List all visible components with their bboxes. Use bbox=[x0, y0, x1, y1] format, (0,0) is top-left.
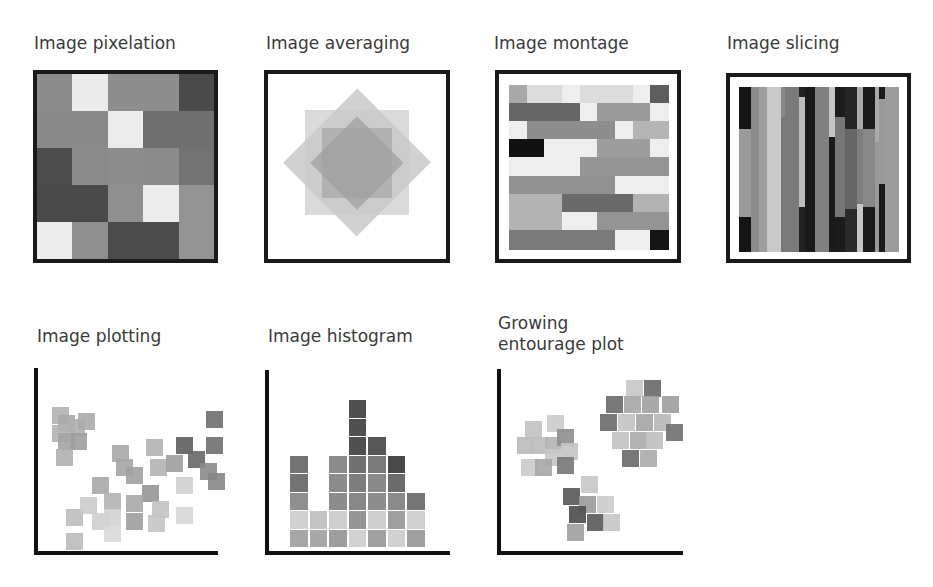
montage-tile bbox=[650, 85, 669, 105]
entourage-point bbox=[640, 450, 657, 467]
histogram-block bbox=[329, 530, 347, 548]
entourage-cluster-bottom bbox=[563, 476, 633, 546]
panel-title-histogram: Image histogram bbox=[268, 325, 413, 347]
slice-segment bbox=[805, 87, 815, 252]
plot-point bbox=[146, 439, 163, 456]
pixel-cell bbox=[108, 74, 145, 112]
entourage-point bbox=[642, 396, 659, 413]
montage-tile bbox=[509, 85, 528, 105]
montage-tile bbox=[650, 139, 669, 159]
plot-point bbox=[80, 497, 97, 514]
histogram-block bbox=[349, 419, 367, 437]
pixel-cell bbox=[143, 74, 180, 112]
montage-tile bbox=[562, 121, 581, 141]
entourage-point bbox=[563, 488, 580, 505]
panel-title-averaging: Image averaging bbox=[266, 32, 410, 54]
plot-point bbox=[208, 473, 225, 490]
pixel-cell bbox=[37, 185, 74, 223]
plot-point bbox=[56, 449, 73, 466]
entourage-point bbox=[626, 380, 643, 397]
y-axis bbox=[497, 369, 501, 555]
montage-tile bbox=[650, 212, 669, 232]
montage-tile bbox=[509, 121, 528, 141]
pixel-cell bbox=[179, 148, 216, 186]
montage-tile bbox=[544, 85, 563, 105]
entourage-point bbox=[597, 496, 614, 513]
entourage-point bbox=[622, 450, 639, 467]
panel-title-plotting: Image plotting bbox=[37, 325, 161, 347]
pixel-cell bbox=[108, 185, 145, 223]
histogram-block bbox=[349, 456, 367, 474]
plot-point bbox=[66, 533, 83, 550]
histogram-block bbox=[388, 456, 406, 474]
slice-segment bbox=[815, 87, 829, 252]
montage-tile bbox=[597, 194, 616, 214]
montage-tile bbox=[562, 212, 581, 232]
montage-tile bbox=[509, 194, 528, 214]
slice-segment bbox=[845, 209, 857, 252]
slice-segment bbox=[751, 87, 759, 252]
montage-tile bbox=[650, 103, 669, 123]
histogram-block bbox=[349, 400, 367, 418]
slice-segment bbox=[845, 87, 857, 129]
slice-segment bbox=[863, 207, 875, 252]
montage-tile bbox=[615, 230, 634, 250]
montage-tile bbox=[562, 176, 581, 196]
plot-point bbox=[104, 493, 121, 510]
histogram-block bbox=[407, 530, 425, 548]
histogram-block bbox=[290, 493, 308, 511]
pixel-cell bbox=[37, 74, 74, 112]
histogram-block bbox=[388, 493, 406, 511]
montage-tile bbox=[615, 103, 634, 123]
montage-tile bbox=[509, 157, 528, 177]
entourage-point bbox=[630, 432, 647, 449]
entourage-point bbox=[569, 506, 586, 523]
slice-segment bbox=[845, 129, 857, 209]
montage-tile bbox=[615, 139, 634, 159]
entourage-point bbox=[624, 396, 641, 413]
histogram-block bbox=[368, 493, 386, 511]
plot-point bbox=[166, 455, 183, 472]
histogram-block bbox=[368, 437, 386, 455]
montage-tile bbox=[650, 176, 669, 196]
pixel-cell bbox=[179, 74, 216, 112]
montage-tile bbox=[650, 121, 669, 141]
montage-tile bbox=[597, 121, 616, 141]
montage-tile bbox=[562, 157, 581, 177]
histogram-block bbox=[290, 530, 308, 548]
pixel-cell bbox=[108, 148, 145, 186]
montage-image bbox=[495, 70, 681, 263]
montage-tile bbox=[544, 103, 563, 123]
entourage-point bbox=[618, 414, 635, 431]
slice-segment bbox=[835, 217, 845, 252]
histogram-block bbox=[290, 511, 308, 529]
montage-tile bbox=[509, 139, 528, 159]
histogram-block bbox=[290, 474, 308, 492]
histogram-block bbox=[290, 456, 308, 474]
pixel-cell bbox=[37, 111, 74, 149]
montage-tile bbox=[544, 157, 563, 177]
histogram-block bbox=[329, 474, 347, 492]
histogram-block bbox=[310, 511, 328, 529]
montage-tile bbox=[562, 85, 581, 105]
histogram-block bbox=[388, 474, 406, 492]
histogram-block bbox=[329, 511, 347, 529]
entourage-point bbox=[606, 396, 623, 413]
montage-tile bbox=[615, 121, 634, 141]
pixel-cell bbox=[108, 111, 145, 149]
slice-segment bbox=[739, 129, 751, 217]
entourage-point bbox=[646, 432, 663, 449]
panel-title-entourage-line1: Growing bbox=[498, 313, 624, 334]
montage-tile bbox=[562, 139, 581, 159]
pixel-cell bbox=[143, 185, 180, 223]
histogram-block bbox=[407, 493, 425, 511]
histogram-block bbox=[388, 530, 406, 548]
pixel-cell bbox=[37, 222, 74, 260]
montage-grid bbox=[509, 85, 668, 248]
pixel-cell bbox=[72, 111, 109, 149]
plot-point bbox=[126, 467, 143, 484]
montage-tile bbox=[509, 212, 528, 232]
slice-segment bbox=[739, 87, 751, 129]
slice-segment bbox=[863, 87, 875, 129]
montage-tile bbox=[597, 176, 616, 196]
